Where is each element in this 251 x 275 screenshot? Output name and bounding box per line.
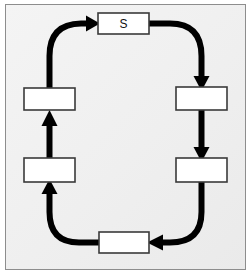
arrowhead-into-left-upper [42, 110, 58, 126]
node-box-right-lower[interactable] [176, 158, 227, 182]
diagram-graphics [0, 0, 251, 275]
node-box-left-lower[interactable] [24, 158, 75, 182]
edge-left-upper-to-s [50, 16, 101, 89]
edge-right-upper-to-right-lower [194, 108, 210, 162]
edge-bottom-to-left-lower [42, 179, 102, 243]
node-box-bottom[interactable] [99, 232, 149, 253]
node-box-s[interactable] [98, 13, 149, 34]
node-box-left-upper[interactable] [24, 88, 75, 110]
edge-s-to-right-upper [146, 24, 210, 92]
diagram-canvas: S [0, 0, 251, 275]
edge-right-lower-to-bottom [147, 180, 202, 251]
node-box-right-upper[interactable] [176, 87, 227, 110]
